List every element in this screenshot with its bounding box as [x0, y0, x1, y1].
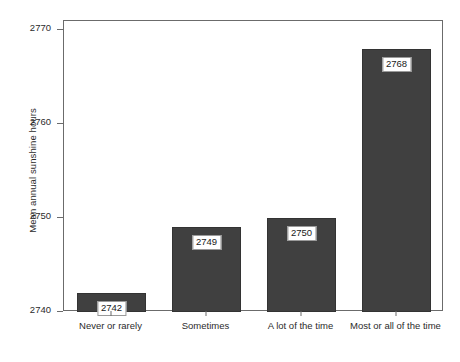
bar-value-label: 2742 [97, 301, 126, 316]
y-axis-tick-label: 2750 [30, 210, 51, 221]
x-axis-category-label: Most or all of the time [341, 320, 451, 332]
x-axis-category-label: Never or rarely [56, 320, 166, 332]
bar[interactable] [362, 49, 431, 312]
bar-value-label: 2768 [382, 57, 411, 72]
plot-area: 2742274927502768 [63, 20, 443, 311]
x-axis-tick-mark [205, 311, 206, 316]
x-axis-tick-mark [110, 311, 111, 316]
y-axis-tick-label: 2740 [30, 304, 51, 315]
y-axis-tick-mark [57, 311, 63, 312]
x-axis-category-label: A lot of the time [246, 320, 356, 332]
bar-chart: Mean annual sunshine hours 2740275027602… [0, 0, 460, 362]
bar-value-label: 2750 [287, 226, 316, 241]
x-axis-tick-mark [300, 311, 301, 316]
bar-value-label: 2749 [192, 235, 221, 250]
y-axis-tick-label: 2770 [30, 22, 51, 33]
y-axis-title: Mean annual sunshine hours [27, 61, 38, 281]
x-axis-category-label: Sometimes [151, 320, 261, 332]
x-axis-tick-mark [395, 311, 396, 316]
y-axis-tick-label: 2760 [30, 116, 51, 127]
